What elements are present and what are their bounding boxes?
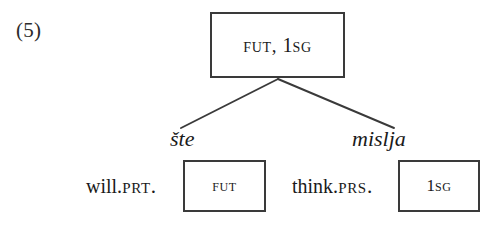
gloss-left-abbrev: PRT. [122,174,157,198]
root-feature-separator: , [272,35,283,56]
word-form-right: mislja [352,126,406,152]
leaf-left-label: FUT [212,176,236,196]
branch-line-left [181,79,278,128]
gloss-left: will.PRT. [86,176,157,197]
root-node-label: FUT, 1SG [243,34,312,57]
leaf-right-label: 1SG [426,176,451,196]
gloss-right: think.PRS. [292,176,373,197]
branch-line-right [278,79,394,128]
gloss-right-stem: think. [292,175,338,197]
word-form-left: šte [170,126,194,152]
root-node-box: FUT, 1SG [210,12,345,78]
leaf-node-box-left: FUT [183,160,266,212]
gloss-left-stem: will. [86,175,122,197]
root-feature-fut: FUT [243,34,272,56]
linguistic-tree-diagram: (5) FUT, 1SG šte mislja will.PRT. think.… [0,0,504,232]
leaf-node-box-right: 1SG [398,160,480,212]
root-feature-1sg: 1SG [282,34,311,56]
gloss-right-abbrev: PRS. [338,174,373,198]
